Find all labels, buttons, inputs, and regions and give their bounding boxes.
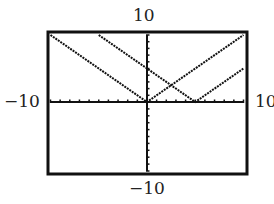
function-curve: [99, 35, 244, 102]
graph-window: [0, 0, 274, 204]
